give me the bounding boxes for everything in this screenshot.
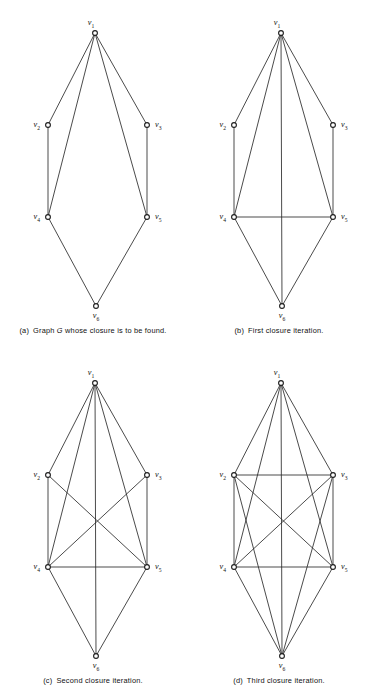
graph-vertex-v2: [46, 473, 51, 478]
graph-edge: [48, 33, 95, 217]
graph-vertex-v6: [94, 304, 99, 309]
panel-tag-c: (c): [43, 676, 52, 685]
graph-vertex-v2: [232, 473, 237, 478]
vertex-group: v1v2v3v4v5v6: [220, 368, 348, 672]
vertex-label-v2: v2: [220, 470, 227, 481]
graph-edge: [48, 383, 95, 567]
graph-edge: [281, 383, 333, 475]
graph-vertex-v2: [232, 123, 237, 128]
vertex-label-v2: v2: [34, 470, 41, 481]
panel-tag-a: (a): [19, 326, 29, 335]
panel-caption-before-b: First closure iteration.: [248, 326, 323, 335]
edge-group: [48, 383, 147, 656]
graph-vertex-v4: [232, 215, 237, 220]
graph-canvas-c: v1v2v3v4v5v6: [0, 350, 186, 676]
graph-vertex-v5: [331, 215, 336, 220]
graph-edge: [234, 217, 282, 306]
graph-edge: [234, 475, 282, 656]
vertex-label-v4: v4: [220, 562, 227, 573]
panel-caption-before-c: Second closure iteration.: [56, 676, 142, 685]
graph-edge: [281, 33, 282, 306]
graph-vertex-v6: [280, 304, 285, 309]
graph-vertex-v5: [331, 565, 336, 570]
graph-vertex-v6: [280, 654, 285, 659]
graph-vertex-v2: [46, 123, 51, 128]
graph-edge: [234, 567, 282, 656]
figure-grid: v1v2v3v4v5v6 (a)Graph G whose closure is…: [0, 0, 372, 693]
edge-group: [234, 33, 333, 306]
graph-edge: [95, 33, 147, 217]
graph-edge: [48, 217, 96, 306]
graph-vertex-v1: [279, 381, 284, 386]
panel-tag-b: (b): [234, 326, 244, 335]
panel-caption-before-d: Third closure iteration.: [247, 676, 325, 685]
graph-vertex-v3: [145, 123, 150, 128]
graph-canvas-b: v1v2v3v4v5v6: [186, 0, 372, 326]
graph-edge: [234, 33, 281, 125]
vertex-label-v6: v6: [279, 661, 286, 672]
vertex-label-v2: v2: [34, 120, 41, 131]
vertex-group: v1v2v3v4v5v6: [220, 18, 348, 322]
vertex-label-v1: v1: [88, 368, 95, 379]
graph-vertex-v4: [46, 565, 51, 570]
vertex-label-v1: v1: [88, 18, 95, 29]
vertex-label-v2: v2: [220, 120, 227, 131]
panel-caption-a: (a)Graph G whose closure is to be found.: [19, 326, 166, 335]
graph-edge: [95, 383, 147, 475]
panel-a: v1v2v3v4v5v6 (a)Graph G whose closure is…: [0, 0, 186, 350]
vertex-label-v5: v5: [341, 212, 348, 223]
edge-group: [234, 383, 333, 656]
vertex-label-v4: v4: [34, 562, 41, 573]
graph-edge: [234, 383, 281, 475]
graph-edge: [281, 33, 333, 125]
graph-vertex-v1: [93, 381, 98, 386]
vertex-label-v3: v3: [155, 470, 162, 481]
edge-group: [48, 33, 147, 306]
graph-edge: [95, 383, 147, 567]
panel-tag-d: (d): [233, 676, 243, 685]
vertex-label-v6: v6: [279, 311, 286, 322]
panel-caption-before-a: Graph: [33, 326, 57, 335]
graph-edge: [282, 217, 333, 306]
panel-b: v1v2v3v4v5v6 (b)First closure iteration.: [186, 0, 372, 350]
vertex-label-v1: v1: [274, 368, 281, 379]
graph-edge: [96, 217, 147, 306]
graph-canvas-d: v1v2v3v4v5v6: [186, 350, 372, 676]
graph-vertex-v4: [46, 215, 51, 220]
vertex-label-v5: v5: [341, 562, 348, 573]
graph-edge: [281, 33, 333, 217]
panel-caption-b: (b)First closure iteration.: [234, 326, 323, 335]
graph-vertex-v1: [279, 31, 284, 36]
vertex-label-v3: v3: [155, 120, 162, 131]
graph-edge: [234, 33, 281, 217]
graph-vertex-v3: [331, 123, 336, 128]
graph-edge: [48, 383, 95, 475]
vertex-label-v5: v5: [155, 212, 162, 223]
graph-edge: [48, 567, 96, 656]
graph-canvas-a: v1v2v3v4v5v6: [0, 0, 186, 326]
graph-edge: [282, 567, 333, 656]
panel-d: v1v2v3v4v5v6 (d)Third closure iteration.: [186, 350, 372, 693]
vertex-label-v5: v5: [155, 562, 162, 573]
graph-vertex-v1: [93, 31, 98, 36]
panel-c: v1v2v3v4v5v6 (c)Second closure iteration…: [0, 350, 186, 693]
graph-vertex-v5: [145, 215, 150, 220]
graph-vertex-v4: [232, 565, 237, 570]
panel-caption-d: (d)Third closure iteration.: [233, 676, 325, 685]
vertex-label-v6: v6: [93, 311, 100, 322]
graph-vertex-v3: [145, 473, 150, 478]
panel-caption-c: (c)Second closure iteration.: [43, 676, 143, 685]
vertex-label-v1: v1: [274, 18, 281, 29]
graph-edge: [48, 33, 95, 125]
vertex-group: v1v2v3v4v5v6: [34, 18, 162, 322]
vertex-group: v1v2v3v4v5v6: [34, 368, 162, 672]
vertex-label-v3: v3: [341, 120, 348, 131]
graph-edge: [95, 33, 147, 125]
graph-edge: [96, 567, 147, 656]
graph-vertex-v6: [94, 654, 99, 659]
graph-edge: [282, 475, 333, 656]
vertex-label-v3: v3: [341, 470, 348, 481]
vertex-label-v6: v6: [93, 661, 100, 672]
vertex-label-v4: v4: [220, 212, 227, 223]
panel-caption-after-a: whose closure is to be found.: [63, 326, 167, 335]
